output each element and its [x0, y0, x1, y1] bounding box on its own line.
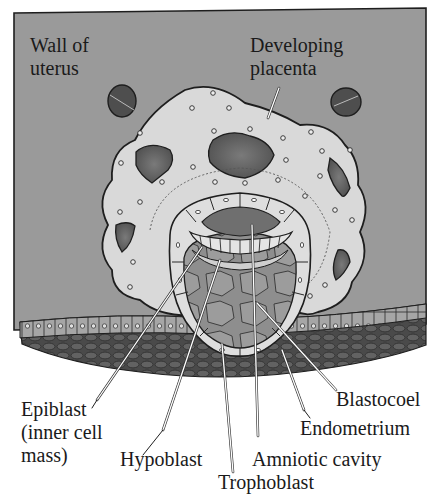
blood-vessel-right: [331, 88, 361, 116]
label-blastocoel: Blastocoel: [336, 388, 420, 411]
label-wall-of-uterus: Wall of uterus: [30, 34, 89, 80]
label-endometrium: Endometrium: [300, 417, 410, 440]
label-epiblast: Epiblast (inner cell mass): [21, 398, 103, 467]
label-amniotic-cavity: Amniotic cavity: [252, 448, 381, 471]
label-hypoblast: Hypoblast: [120, 448, 202, 471]
blood-vessel-left: [108, 85, 136, 117]
label-developing-placenta: Developing placenta: [250, 34, 343, 80]
label-trophoblast: Trophoblast: [218, 471, 314, 494]
